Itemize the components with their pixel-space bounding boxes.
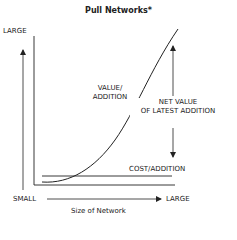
x-axis-title: Size of Network [71, 207, 126, 216]
value-label-line2: ADDITION [88, 93, 132, 102]
value-label-line1: VALUE/ [88, 84, 132, 93]
y-axis-top-label: LARGE [3, 27, 27, 36]
cost-line-label: COST/ADDITION [129, 165, 185, 174]
value-curve-label: VALUE/ ADDITION [88, 84, 132, 102]
x-axis-right-label: LARGE [166, 195, 190, 204]
net-value-line1: NET VALUE [130, 98, 226, 107]
net-value-line2: OF LATEST ADDITION [130, 107, 226, 116]
x-axis-left-label: SMALL [13, 195, 36, 204]
net-value-label: NET VALUE OF LATEST ADDITION [130, 98, 226, 116]
